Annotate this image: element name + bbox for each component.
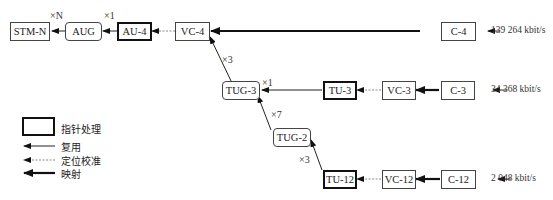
multiplier-stm-aug: ×N — [50, 10, 63, 21]
multiplier-tug3-tu3: ×1 — [262, 77, 273, 88]
tu12-box: TU-12 — [323, 170, 357, 189]
legend-pointer-processing: 指针处理 — [61, 121, 101, 136]
vc3-box: VC-3 — [382, 81, 416, 100]
multiplier-vc4-tug3: ×3 — [222, 54, 233, 65]
c12-box: C-12 — [441, 170, 476, 189]
rate-c3: 34 368 kbit/s — [491, 84, 541, 94]
tu3-box: TU-3 — [323, 81, 357, 100]
tug3-label: TUG-3 — [226, 85, 256, 96]
c3-label: C-3 — [450, 85, 466, 96]
tug2-to-tug3-arrow — [258, 96, 271, 130]
tu3-label: TU-3 — [329, 85, 352, 96]
stm-n-label: STM-N — [14, 26, 47, 37]
vc12-label: VC-12 — [385, 174, 414, 185]
tu12-to-tug2-arrow — [311, 140, 322, 170]
vc4-label: VC-4 — [181, 26, 204, 37]
c3-box: C-3 — [441, 81, 475, 100]
rate-c12: 2 048 kbit/s — [491, 173, 536, 183]
vc4-box: VC-4 — [175, 22, 210, 41]
legend-mapping: 映射 — [61, 166, 81, 181]
legend-multiplexing: 复用 — [61, 139, 81, 154]
c12-label: C-12 — [448, 174, 469, 185]
au4-box: AU-4 — [117, 22, 152, 41]
aug-box: AUG — [65, 22, 102, 41]
tu12-label: TU-12 — [326, 174, 354, 185]
multiplier-aug-au4: ×1 — [104, 10, 115, 21]
tug3-box: TUG-3 — [222, 81, 260, 100]
aug-label: AUG — [72, 26, 95, 37]
stm-n-box: STM-N — [10, 22, 50, 41]
multiplier-tug2-tu12: ×3 — [299, 154, 310, 165]
tug2-label: TUG-2 — [277, 132, 307, 143]
vc12-box: VC-12 — [382, 170, 416, 189]
c4-label: C-4 — [451, 26, 467, 37]
legend-pointer-box — [22, 117, 55, 136]
tug2-box: TUG-2 — [273, 128, 311, 147]
au4-label: AU-4 — [123, 26, 147, 37]
rate-c4: 139 264 kbit/s — [491, 25, 545, 35]
vc3-label: VC-3 — [387, 85, 410, 96]
c4-box: C-4 — [441, 22, 476, 41]
multiplier-tug3-tug2: ×7 — [271, 109, 282, 120]
